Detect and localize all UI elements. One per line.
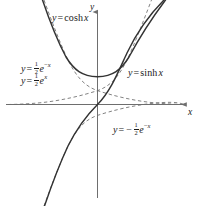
half-e-x-lhs: y — [21, 75, 26, 86]
half-e-neg-x-exponent-variable: x — [48, 61, 51, 68]
x-axis-label: x — [188, 107, 192, 117]
half-e-x-denominator: 2 — [34, 80, 39, 88]
half-e-neg-x-exponent: −x — [44, 61, 51, 68]
sinh-lhs: y — [128, 67, 133, 78]
annotation-cosh: y=coshx — [52, 13, 89, 23]
sinh-function-name: sinh — [140, 67, 158, 78]
annotation-neg-half-e-neg-x: y=−12e−x — [113, 122, 151, 136]
half-e-x-exponent-variable: x — [44, 73, 47, 80]
annotation-half-e-x: y=12ex — [21, 73, 47, 87]
half-e-x-equals: = — [26, 75, 34, 86]
cosh-lhs: y — [52, 12, 57, 23]
neg-half-exponent-variable: x — [148, 122, 151, 129]
y-axis-label: y — [90, 2, 94, 12]
half-e-x-fraction: 12 — [34, 73, 39, 87]
neg-half-minus-sign: − — [125, 124, 133, 135]
annotation-sinh: y=sinhx — [128, 68, 163, 78]
curve-sinh — [45, 0, 165, 206]
cosh-function-name: cosh — [64, 12, 84, 23]
neg-half-exponent: −x — [144, 122, 151, 129]
neg-half-lhs: y — [113, 124, 118, 135]
cosh-variable: x — [84, 12, 89, 23]
hyperbolic-functions-figure: y=coshx y=sinhx y=12e−x y=12ex y=−12e−x … — [0, 0, 199, 206]
half-e-x-exponent: x — [44, 73, 47, 80]
sinh-variable: x — [158, 67, 163, 78]
plot-area — [0, 0, 199, 206]
